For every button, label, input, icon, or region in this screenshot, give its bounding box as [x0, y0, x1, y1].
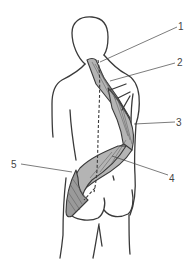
left-shoulder-outline: [52, 64, 85, 137]
leader-2: [110, 63, 175, 81]
left-arm-inner-line: [70, 110, 76, 160]
label-3: 3: [176, 117, 182, 128]
left-torso-outline: [60, 178, 66, 258]
scapula-line-3: [122, 96, 130, 110]
head-outline: [72, 17, 108, 64]
leader-3: [134, 122, 175, 124]
inner-leg-right: [99, 226, 102, 246]
label-2: 2: [177, 57, 183, 68]
leader-1: [100, 27, 177, 62]
buttocks-right-outline: [104, 190, 133, 217]
label-5: 5: [11, 159, 17, 170]
scapula-line-1: [110, 84, 126, 90]
right-leg-outline: [129, 215, 130, 254]
sacral-mark: [113, 176, 114, 180]
inner-leg-left: [93, 224, 99, 258]
right-arm-line: [131, 94, 133, 126]
label-4: 4: [169, 173, 175, 184]
scapula-line-2: [118, 92, 130, 98]
label-1: 1: [178, 21, 184, 32]
anatomy-diagram: 1 2 3 4 5: [0, 0, 194, 275]
leader-4: [112, 156, 168, 175]
leader-5: [21, 164, 72, 172]
